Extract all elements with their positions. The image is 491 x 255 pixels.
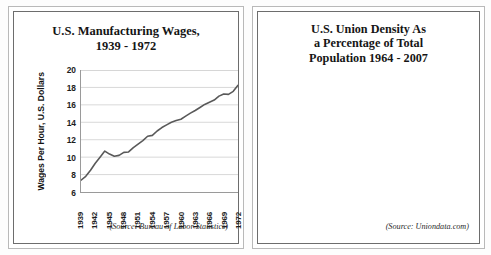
right-title-line-1: U.S. Union Density As bbox=[264, 22, 473, 36]
figure-sheet: U.S. Manufacturing Wages, 1939 - 1972 Wa… bbox=[0, 0, 491, 255]
y-tick-label: 16 bbox=[67, 100, 76, 110]
left-panel-inner-border: U.S. Manufacturing Wages, 1939 - 1972 Wa… bbox=[13, 11, 239, 244]
left-source-note: (Source: Bureau of Labor Statistics) bbox=[109, 222, 228, 231]
y-tick-label: 10 bbox=[67, 153, 76, 163]
left-title-line-2: 1939 - 1972 bbox=[20, 39, 232, 54]
y-tick-label: 18 bbox=[67, 83, 76, 93]
y-tick-label: 12 bbox=[67, 135, 76, 145]
x-tick-label: 1942 bbox=[90, 212, 99, 229]
left-plot-area bbox=[80, 70, 238, 193]
left-gridlines bbox=[81, 70, 238, 175]
right-source-note: (Source: Uniondata.com) bbox=[386, 222, 469, 231]
left-line-chart-svg bbox=[81, 70, 238, 192]
left-chart-panel: U.S. Manufacturing Wages, 1939 - 1972 Wa… bbox=[8, 6, 244, 249]
right-chart-title: U.S. Union Density As a Percentage of To… bbox=[264, 22, 473, 65]
right-panel-inner-border: U.S. Union Density As a Percentage of To… bbox=[257, 11, 480, 244]
x-tick-label: 1972 bbox=[234, 212, 243, 229]
right-title-line-3: Population 1964 - 2007 bbox=[264, 51, 473, 65]
wages-line-series bbox=[81, 85, 238, 180]
y-tick-label: 6 bbox=[71, 188, 76, 198]
x-tick-label: 1939 bbox=[76, 212, 85, 229]
left-chart-title: U.S. Manufacturing Wages, 1939 - 1972 bbox=[20, 24, 232, 54]
y-tick-label: 8 bbox=[71, 170, 76, 180]
right-title-line-2: a Percentage of Total bbox=[264, 36, 473, 50]
left-y-axis-title: Wages Per Hour, U.S. Dollars bbox=[34, 70, 48, 193]
right-chart-panel: U.S. Union Density As a Percentage of To… bbox=[252, 6, 485, 249]
y-tick-label: 20 bbox=[67, 65, 76, 75]
y-tick-label: 14 bbox=[67, 118, 76, 128]
left-title-line-1: U.S. Manufacturing Wages, bbox=[20, 24, 232, 39]
left-y-tick-labels: 68101214161820 bbox=[54, 70, 76, 193]
left-y-axis-title-text: Wages Per Hour, U.S. Dollars bbox=[36, 72, 46, 191]
